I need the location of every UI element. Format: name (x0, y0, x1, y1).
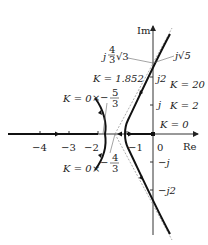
tick-minus-j2: −j2 (158, 185, 176, 196)
imag-axis-label: Im (137, 25, 151, 36)
tick-minus-4: −4 (32, 142, 47, 153)
k20-label: K = 20 (169, 79, 206, 90)
imag-axis (150, 26, 153, 235)
tick-minus-1: −1 (128, 142, 143, 153)
tick-minus-3: −3 (61, 142, 76, 153)
tick-minus-2: −2 (84, 142, 99, 153)
svg-text:4: 4 (112, 152, 118, 163)
tick-minus-j: −j (158, 157, 169, 168)
tick-0: 0 (157, 142, 163, 153)
origin-pole-icon (151, 132, 155, 136)
minus-five-thirds-label: − 5 3 (100, 87, 119, 109)
k-breakaway-label: K = 1.852 (92, 73, 144, 84)
svg-text:3: 3 (109, 54, 115, 65)
svg-text:5: 5 (112, 87, 118, 98)
j-four-thirds-sqrt3-label: j 4 3 √3 (101, 44, 129, 65)
svg-text:−: − (100, 92, 108, 103)
svg-text:−: − (100, 157, 108, 168)
tick-j2: j2 (155, 73, 166, 84)
real-axis-locus (8, 132, 153, 137)
svg-text:3: 3 (112, 98, 118, 109)
k0-lower-label: K = 0 (62, 163, 92, 174)
k0-upper-label: K = 0 (62, 93, 92, 104)
svg-text:j: j (101, 51, 106, 62)
real-axis-label: Re (183, 141, 197, 152)
k2-label: K = 2 (169, 100, 199, 111)
j-sqrt5-label: j√5 (173, 50, 191, 61)
svg-text:3: 3 (112, 163, 118, 174)
tick-j: j (156, 99, 161, 110)
svg-text:√3: √3 (116, 51, 129, 62)
k0-origin-label: K = 0 (159, 119, 189, 130)
root-locus-diagram: × × Im Re −4 −3 −2 −1 0 j2 j −j −j2 K = … (0, 0, 208, 245)
